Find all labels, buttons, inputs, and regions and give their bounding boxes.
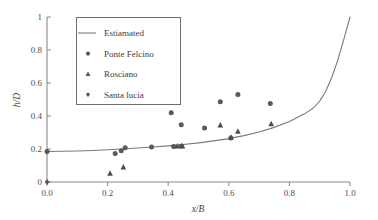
y-tick-label: 0 — [38, 177, 43, 187]
data-point-circle — [179, 122, 184, 127]
y-tick-label: 1 — [38, 12, 43, 22]
y-tick-label: 0.8 — [31, 45, 43, 55]
data-point-circle — [119, 148, 124, 153]
legend-label: Santa lucia — [104, 90, 144, 100]
y-axis-title: h/D — [12, 93, 22, 107]
scatter-chart: 0.00.20.40.60.81.0 00.20.40.60.81 x/B h/… — [0, 0, 378, 220]
y-tick-label: 0.2 — [31, 144, 42, 154]
x-tick-label: 0.2 — [102, 188, 113, 198]
x-axis-title: x/B — [191, 204, 205, 214]
data-point-circle — [169, 110, 174, 115]
chart-background — [0, 0, 378, 220]
legend: EstiamatedPonte FelcinoRoscianoSanta luc… — [77, 18, 181, 105]
data-point-circle — [113, 151, 118, 156]
data-point-circle — [149, 145, 154, 150]
legend-marker-circle — [86, 51, 90, 55]
data-point-circle — [123, 145, 128, 150]
x-tick-label: 0.6 — [223, 188, 235, 198]
data-point-circle — [202, 126, 207, 131]
x-tick-label: 0.8 — [284, 188, 296, 198]
chart-container: 0.00.20.40.60.81.0 00.20.40.60.81 x/B h/… — [0, 0, 378, 220]
legend-label: Ponte Felcino — [104, 49, 154, 59]
y-tick-label: 0.6 — [31, 78, 43, 88]
legend-label: Estiamated — [104, 28, 144, 38]
x-tick-label: 0.4 — [163, 188, 175, 198]
x-tick-label: 1.0 — [344, 188, 356, 198]
data-point-circle — [218, 99, 223, 104]
data-point-circle — [268, 101, 273, 106]
y-tick-label: 0.4 — [31, 111, 43, 121]
data-point-circle — [235, 92, 240, 97]
x-tick-label: 0.0 — [41, 188, 53, 198]
legend-label: Rosciano — [104, 69, 138, 79]
